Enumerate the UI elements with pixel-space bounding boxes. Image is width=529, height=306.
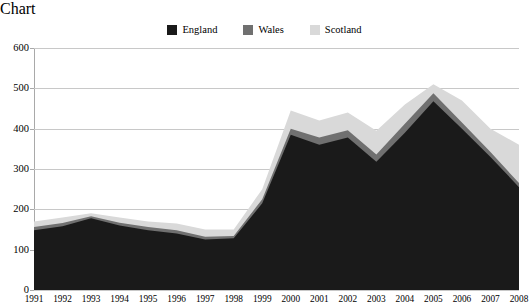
x-tick-label-2008: 2008 xyxy=(510,293,529,305)
legend-item-wales[interactable]: Wales xyxy=(243,25,283,35)
x-tick-label-1991: 1991 xyxy=(25,293,44,305)
legend-swatch-england xyxy=(167,25,177,35)
x-tick-label-2001: 2001 xyxy=(310,293,329,305)
y-axis: 0100200300400500600 xyxy=(0,18,34,306)
x-axis: 1991199219931994199519961997199819992000… xyxy=(34,293,519,306)
y-tick-label-500: 500 xyxy=(13,83,29,93)
x-tick-label-2002: 2002 xyxy=(339,293,358,305)
x-tick-label-1998: 1998 xyxy=(224,293,243,305)
stacked-area-chart: England Wales Scotland 01002003004005006… xyxy=(0,18,529,306)
x-tick-label-2007: 2007 xyxy=(481,293,500,305)
y-tick-label-300: 300 xyxy=(13,164,29,174)
legend-label-england: England xyxy=(182,25,217,35)
y-tick-label-400: 400 xyxy=(13,124,29,134)
y-tick-label-200: 200 xyxy=(13,204,29,214)
y-tick-label-600: 600 xyxy=(13,43,29,53)
plot-area xyxy=(34,48,519,290)
x-tick-label-2006: 2006 xyxy=(453,293,472,305)
x-tick-label-1993: 1993 xyxy=(82,293,101,305)
legend-item-scotland[interactable]: Scotland xyxy=(310,25,362,35)
x-tick-label-2000: 2000 xyxy=(281,293,300,305)
x-tick-label-1992: 1992 xyxy=(53,293,72,305)
gridline-0 xyxy=(34,290,519,291)
x-tick-label-2003: 2003 xyxy=(367,293,386,305)
area-england[interactable] xyxy=(34,101,519,290)
x-tick-label-1994: 1994 xyxy=(110,293,129,305)
legend-swatch-scotland xyxy=(310,25,320,35)
x-tick-label-1996: 1996 xyxy=(167,293,186,305)
legend-swatch-wales xyxy=(243,25,253,35)
x-tick-label-2004: 2004 xyxy=(396,293,415,305)
x-tick-label-1999: 1999 xyxy=(253,293,272,305)
chart-legend: England Wales Scotland xyxy=(0,22,529,38)
legend-item-england[interactable]: England xyxy=(167,25,217,35)
legend-label-wales: Wales xyxy=(258,25,283,35)
legend-label-scotland: Scotland xyxy=(325,25,362,35)
x-tick-label-1995: 1995 xyxy=(139,293,158,305)
x-tick-label-1997: 1997 xyxy=(196,293,215,305)
area-series-group xyxy=(34,48,519,290)
y-tick-label-100: 100 xyxy=(13,245,29,255)
x-tick-label-2005: 2005 xyxy=(424,293,443,305)
